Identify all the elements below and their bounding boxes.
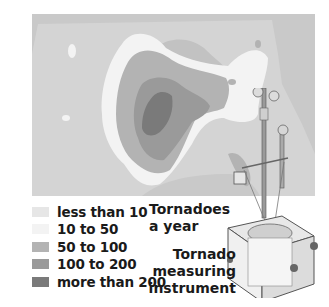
legend-swatch [32,259,49,269]
legend-item-less-than-10: less than 10 [32,203,166,221]
legend-swatch [32,277,49,287]
legend-item-more-than-200: more than 200 [32,273,166,291]
legend-item-50-to-100: 50 to 100 [32,238,166,256]
map-title: Tornadoes a year [149,201,230,235]
legend-label: 10 to 50 [57,221,118,237]
legend-label: less than 10 [57,204,147,220]
legend-swatch [32,207,49,217]
instrument-caption: Tornado measuring instrument [149,246,236,297]
caption-line-1: Tornado [149,246,236,263]
legend-item-10-to-50: 10 to 50 [32,221,166,239]
legend-swatch [32,242,49,252]
map-title-line-1: Tornadoes [149,201,230,218]
map-legend: less than 10 10 to 50 50 to 100 100 to 2… [32,203,166,291]
legend-item-100-to-200: 100 to 200 [32,256,166,274]
caption-line-3: instrument [149,280,236,297]
legend-label: 100 to 200 [57,256,137,272]
legend-swatch [32,224,49,234]
caption-line-2: measuring [149,263,236,280]
legend-label: 50 to 100 [57,239,127,255]
tornado-instrument-illustration [222,88,322,302]
map-title-line-2: a year [149,218,230,235]
